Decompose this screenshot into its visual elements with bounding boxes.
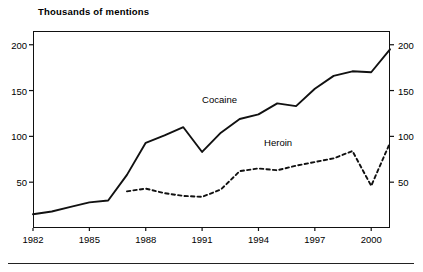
line-series-cocaine [33,49,390,214]
series-label-cocaine: Cocaine [202,94,237,105]
x-tick-label-2000: 2000 [351,234,391,245]
y-tick-label-right-200: 200 [398,39,423,50]
y-tick-label-right-100: 100 [398,131,423,142]
x-tick-label-1994: 1994 [238,234,278,245]
y-tick-label-left-200: 200 [1,39,27,50]
y-tick-label-left-150: 150 [1,85,27,96]
bottom-divider [8,263,414,264]
x-tick-label-1988: 1988 [126,234,166,245]
x-tick-label-1985: 1985 [69,234,109,245]
line-series-heroin [127,143,390,197]
x-tick-label-1991: 1991 [182,234,222,245]
chart-container: Thousands of mentions 505010010015015020… [0,0,423,272]
x-axis-ticks [33,228,371,231]
y-tick-label-left-100: 100 [1,131,27,142]
chart-svg-layer [0,0,423,272]
x-tick-label-1982: 1982 [13,234,53,245]
y-axis-ticks-left [29,45,33,182]
x-tick-label-1997: 1997 [295,234,335,245]
series-label-heroin: Heroin [264,137,292,148]
y-tick-label-right-50: 50 [398,177,423,188]
y-tick-label-left-50: 50 [1,177,27,188]
y-tick-label-right-150: 150 [398,85,423,96]
y-axis-ticks-right [390,45,394,182]
